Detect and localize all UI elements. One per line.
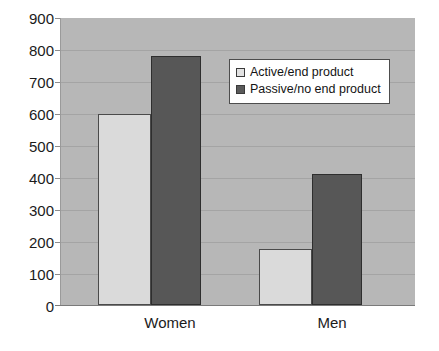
plot-area: Active/end product Passive/no end produc… [60,18,415,305]
y-tick-label: 700 [0,75,54,90]
y-tick-label: 200 [0,235,54,250]
bar-women-active [98,114,151,305]
bar-men-active [259,249,312,305]
legend-item-active: Active/end product [236,64,381,81]
gridline [61,50,415,51]
category-label-women: Women [120,315,220,330]
y-tick-label: 0 [0,299,54,314]
legend-label: Active/end product [250,66,354,79]
y-tick-label: 400 [0,171,54,186]
bar-women-passive [151,56,201,305]
y-tick-label: 500 [0,139,54,154]
y-tick-label: 600 [0,107,54,122]
x-axis-line [55,305,415,306]
y-tick-label: 800 [0,43,54,58]
y-tick-label: 100 [0,267,54,282]
y-axis: 900 800 700 600 500 400 300 200 100 0 [0,0,54,351]
bar-men-passive [312,174,362,305]
dark-gray-swatch-icon [236,85,245,94]
y-tick-label: 900 [0,11,54,26]
y-tick-label: 300 [0,203,54,218]
light-gray-swatch-icon [236,68,245,77]
legend-item-passive: Passive/no end product [236,81,381,98]
legend: Active/end product Passive/no end produc… [229,59,390,104]
category-label-men: Men [282,315,382,330]
legend-label: Passive/no end product [250,83,381,96]
bar-chart: 900 800 700 600 500 400 300 200 100 0 [0,0,439,351]
